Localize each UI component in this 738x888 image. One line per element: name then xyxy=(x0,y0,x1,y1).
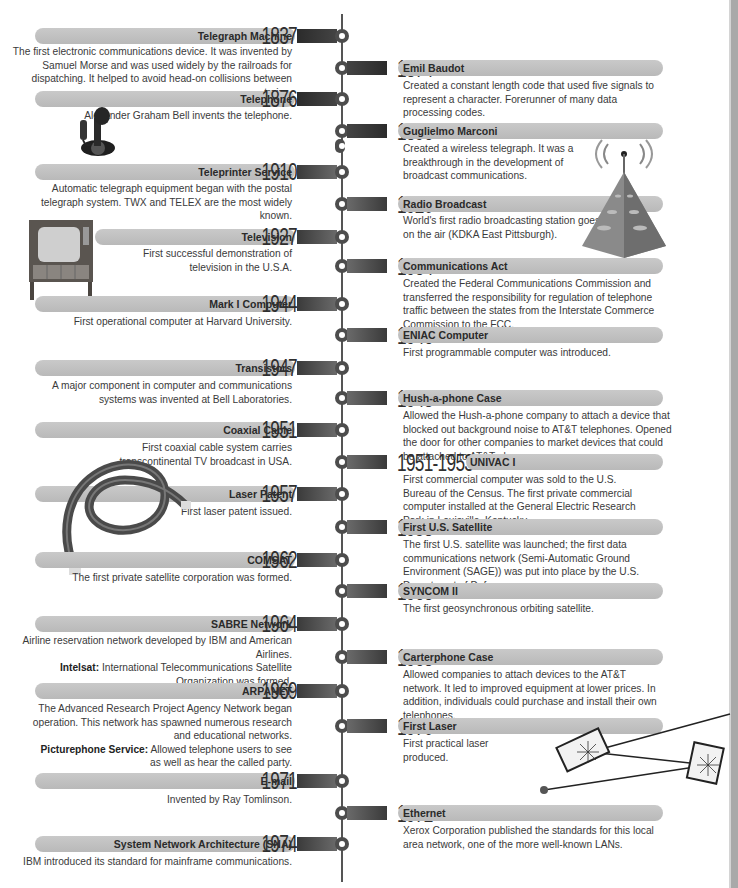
year-connector xyxy=(347,328,387,342)
entry-description: Xerox Corporation published the standard… xyxy=(403,824,663,851)
entry-title: Emil Baudot xyxy=(403,60,464,76)
timeline-node xyxy=(335,684,349,698)
timeline-node xyxy=(335,165,349,179)
timeline-node xyxy=(335,423,349,437)
year-connector xyxy=(347,124,387,138)
year-connector xyxy=(297,487,337,501)
entry-year: 1969 xyxy=(254,679,297,703)
entry-description: Created a constant length code that used… xyxy=(403,79,658,120)
timeline-node xyxy=(335,617,349,631)
year-connector xyxy=(297,297,337,311)
year-connector xyxy=(347,719,387,733)
year-connector xyxy=(297,837,337,851)
entry-description: The first private satellite corporation … xyxy=(32,571,292,585)
entry-title: Communications Act xyxy=(403,258,508,274)
year-connector xyxy=(297,774,337,788)
year-connector xyxy=(347,61,387,75)
year-connector xyxy=(347,197,387,211)
year-connector xyxy=(297,230,337,244)
entry-description: Invented by Ray Tomlinson. xyxy=(32,793,292,807)
entry-description: First practical laser produced. xyxy=(403,737,493,764)
entry-year: 1927 xyxy=(254,225,297,249)
entry-year: 1910 xyxy=(254,160,297,184)
entry-title: First Laser xyxy=(403,718,457,734)
year-connector xyxy=(297,29,337,43)
timeline-node xyxy=(335,837,349,851)
year-connector xyxy=(297,553,337,567)
year-connector xyxy=(297,165,337,179)
entry-year: 1971 xyxy=(254,769,297,793)
year-connector xyxy=(347,455,387,469)
year-connector xyxy=(297,684,337,698)
entry-year: 1974 xyxy=(254,832,297,856)
timeline-node xyxy=(335,297,349,311)
timeline-node xyxy=(335,92,349,106)
entry-description: Created the Federal Communications Commi… xyxy=(403,277,673,331)
entry-year: 1944 xyxy=(254,292,297,316)
entry-description: A major component in computer and commun… xyxy=(42,379,292,406)
entry-description: IBM introduced its standard for mainfram… xyxy=(22,855,292,869)
entry-year: 1957 xyxy=(254,482,297,506)
entry-year: 1964 xyxy=(254,612,297,636)
entry-extra-label: Picturephone Service: xyxy=(41,744,149,755)
entry-year: 1876 xyxy=(254,87,297,111)
timeline-node xyxy=(335,774,349,788)
radio-tower-icon xyxy=(578,134,670,259)
entry-description: Airline reservation network developed by… xyxy=(2,634,292,688)
year-connector xyxy=(347,806,387,820)
entry-year: 1947 xyxy=(254,356,297,380)
laser-mirrors-icon xyxy=(530,710,735,805)
entry-description: First programmable computer was introduc… xyxy=(403,346,663,360)
timeline-node xyxy=(335,487,349,501)
entry-title: UNIVAC I xyxy=(470,454,515,470)
year-connector xyxy=(347,650,387,664)
entry-description: Created a wireless telegraph. It was a b… xyxy=(403,142,603,183)
year-connector xyxy=(347,584,387,598)
entry-description: The Advanced Research Project Agency Net… xyxy=(27,702,292,770)
entry-description: Automatic telegraph equipment began with… xyxy=(32,182,292,223)
year-connector xyxy=(347,259,387,273)
entry-description: First operational computer at Harvard Un… xyxy=(32,315,292,329)
entry-description: World's first radio broadcasting station… xyxy=(403,214,603,241)
entry-description: The first geosynchronous orbiting satell… xyxy=(403,602,663,616)
entry-description: Alexander Graham Bell invents the teleph… xyxy=(32,109,292,123)
entry-year: 1951 xyxy=(254,418,297,442)
television-set-icon xyxy=(28,219,94,301)
year-connector xyxy=(297,361,337,375)
timeline-node xyxy=(335,29,349,43)
entry-description-main: Airline reservation network developed by… xyxy=(22,635,292,660)
entry-year: 1962 xyxy=(254,548,297,572)
year-connector xyxy=(297,617,337,631)
timeline-node xyxy=(335,361,349,375)
year-connector xyxy=(297,423,337,437)
entry-title: First U.S. Satellite xyxy=(403,519,492,535)
entry-description-main: The Advanced Research Project Agency Net… xyxy=(33,703,292,741)
year-connector xyxy=(297,92,337,106)
year-connector xyxy=(347,520,387,534)
timeline-node xyxy=(335,553,349,567)
entry-title: Carterphone Case xyxy=(403,649,493,665)
entry-title: Hush-a-phone Case xyxy=(403,390,502,406)
entry-title: Radio Broadcast xyxy=(403,196,486,212)
entry-title: SYNCOM II xyxy=(403,583,458,599)
entry-title: Ethernet xyxy=(403,805,446,821)
timeline-node xyxy=(335,230,349,244)
entry-title: ENIAC Computer xyxy=(403,327,488,343)
entry-year: 1951-1953 xyxy=(397,451,473,475)
candlestick-telephone-icon xyxy=(74,104,122,158)
entry-extra-text: Allowed telephone users to see as well a… xyxy=(150,744,292,769)
entry-description: First successful demonstration of televi… xyxy=(112,247,292,274)
spine-marker xyxy=(335,139,345,153)
entry-extra-label: Intelsat: xyxy=(60,662,99,673)
entry-title: Guglielmo Marconi xyxy=(403,123,498,139)
year-connector xyxy=(347,391,387,405)
